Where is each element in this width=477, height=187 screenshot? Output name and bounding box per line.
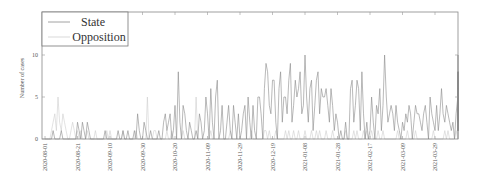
legend-label-state: State xyxy=(81,15,105,29)
state-series-line xyxy=(45,55,458,139)
x-tick-label: 2020-11-29 xyxy=(237,143,243,171)
x-tick-label: 2021-01-28 xyxy=(335,143,341,171)
legend-label-opposition: Opposition xyxy=(72,30,125,44)
line-chart: 0 5 10 Number of cases 2020-08-012020-08… xyxy=(0,0,477,187)
plot-area xyxy=(45,55,458,139)
y-tick-label: 5 xyxy=(35,94,38,100)
legend: State Opposition xyxy=(42,12,128,46)
y-axis: 0 5 10 Number of cases xyxy=(19,52,458,142)
x-tick-label: 2020-08-21 xyxy=(75,143,81,171)
x-tick-label: 2021-01-08 xyxy=(302,143,308,171)
y-tick-label: 10 xyxy=(32,52,38,58)
x-tick-label: 2020-10-20 xyxy=(172,143,178,171)
x-tick-label: 2021-02-17 xyxy=(367,143,373,171)
x-tick-label: 2021-03-09 xyxy=(400,143,406,171)
x-tick-label: 2020-09-10 xyxy=(107,143,113,171)
x-tick-label: 2020-09-30 xyxy=(140,143,146,171)
y-axis-label: Number of cases xyxy=(19,57,25,98)
x-tick-label: 2020-11-09 xyxy=(205,143,211,171)
x-tick-label: 2020-08-01 xyxy=(42,143,48,171)
x-tick-label: 2021-03-29 xyxy=(432,143,438,171)
x-tick-label: 2020-12-19 xyxy=(270,143,276,171)
y-tick-label: 0 xyxy=(35,136,38,142)
